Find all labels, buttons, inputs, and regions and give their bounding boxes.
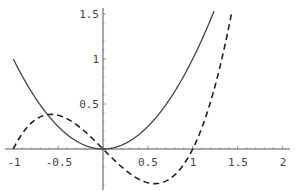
x-tick-label: 2 [280, 156, 287, 169]
x-tick-labels: -1 -0.5 0.5 1 1.5 2 [7, 156, 286, 169]
x-tick-label: -0.5 [46, 156, 73, 169]
solid-curve-x-squared [13, 11, 214, 149]
x-tick-label: 0.5 [138, 156, 158, 169]
y-tick-label: 1 [92, 53, 99, 66]
x-tick-label: -1 [7, 156, 20, 169]
y-tick-label: 0.5 [79, 98, 99, 111]
y-tick-label: 1.5 [79, 8, 99, 21]
x-tick-label: 1 [190, 156, 197, 169]
x-tick-label: 1.5 [228, 156, 248, 169]
y-tick-labels: 0.5 1 1.5 [79, 8, 99, 111]
function-plot: -1 -0.5 0.5 1 1.5 2 0.5 1 1.5 [0, 0, 295, 191]
